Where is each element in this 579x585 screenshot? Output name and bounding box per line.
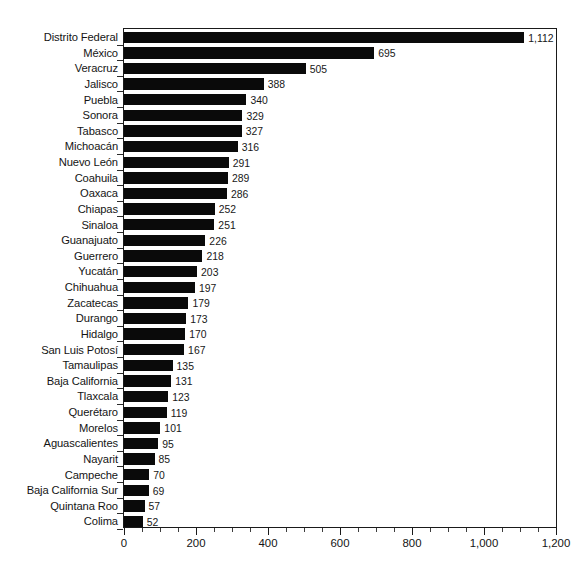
- bar: [124, 469, 149, 480]
- category-label: Michoacán: [65, 138, 118, 155]
- category-label: México: [83, 45, 118, 62]
- bar: [124, 391, 168, 402]
- category-label: Querétaro: [69, 404, 118, 421]
- category-label: Sinaloa: [81, 217, 118, 234]
- x-tick-label: 200: [186, 537, 205, 549]
- category-label: Baja California: [47, 373, 118, 390]
- bar-chart: Distrito Federal1,112México695Veracruz50…: [0, 0, 579, 585]
- bar-row: Guerrero218: [0, 248, 579, 265]
- category-label: Chiapas: [78, 201, 118, 218]
- x-tick-minor: [178, 528, 179, 532]
- category-label: Nayarit: [83, 451, 118, 468]
- x-tick-major: [484, 528, 485, 535]
- x-tick-minor: [232, 528, 233, 532]
- x-axis: 02004006008001,0001,200: [0, 528, 579, 568]
- x-tick-minor: [304, 528, 305, 532]
- bar: [124, 188, 227, 199]
- bar: [124, 235, 205, 246]
- x-tick-minor: [430, 528, 431, 532]
- bar-row: Baja California131: [0, 373, 579, 390]
- category-label: Coahuila: [75, 170, 118, 187]
- x-tick-minor: [520, 528, 521, 532]
- bar-row: Hidalgo170: [0, 326, 579, 343]
- category-label: Sonora: [83, 107, 118, 124]
- category-label: Morelos: [79, 420, 118, 437]
- x-tick-minor: [322, 528, 323, 532]
- bar-row: Morelos101: [0, 420, 579, 437]
- bar-row: Nayarit85: [0, 451, 579, 468]
- bar-row: Veracruz505: [0, 60, 579, 77]
- bar: [124, 63, 306, 74]
- bar: [124, 219, 214, 230]
- x-tick-major: [268, 528, 269, 535]
- bar: [124, 344, 184, 355]
- x-tick-major: [412, 528, 413, 535]
- x-tick-minor: [286, 528, 287, 532]
- x-tick-minor: [376, 528, 377, 532]
- bar: [124, 266, 197, 277]
- category-label: Zacatecas: [67, 295, 118, 312]
- category-label: Campeche: [65, 467, 118, 484]
- bar-row: Querétaro119: [0, 404, 579, 421]
- bar-row: Sinaloa251: [0, 217, 579, 234]
- category-label: Jalisco: [85, 76, 119, 93]
- category-label: Guanajuato: [61, 232, 118, 249]
- bar: [124, 438, 158, 449]
- bar-row: Quintana Roo57: [0, 498, 579, 515]
- bar-row: Baja California Sur69: [0, 482, 579, 499]
- bar: [124, 516, 143, 527]
- x-tick-minor: [502, 528, 503, 532]
- x-tick-major: [340, 528, 341, 535]
- bar: [124, 313, 186, 324]
- bar-row: Puebla340: [0, 92, 579, 109]
- x-tick-minor: [358, 528, 359, 532]
- bar-row: Aguascalientes95: [0, 435, 579, 452]
- bar-row: Zacatecas179: [0, 295, 579, 312]
- category-label: Chihuahua: [65, 279, 118, 296]
- bar-row: Yucatán203: [0, 263, 579, 280]
- bar: [124, 141, 238, 152]
- bar-row: Tamaulipas135: [0, 357, 579, 374]
- bar: [124, 407, 167, 418]
- bar-row: Distrito Federal1,112: [0, 29, 579, 46]
- bar: [124, 47, 374, 58]
- bar-row: Durango173: [0, 310, 579, 327]
- x-tick-minor: [160, 528, 161, 532]
- category-label: Tlaxcala: [77, 388, 118, 405]
- category-label: Quintana Roo: [50, 498, 118, 515]
- bar: [124, 360, 173, 371]
- bar-row: Sonora329: [0, 107, 579, 124]
- bar-row: Campeche70: [0, 467, 579, 484]
- bar: [124, 485, 149, 496]
- bar: [124, 125, 242, 136]
- x-tick-major: [556, 528, 557, 535]
- x-tick-minor: [466, 528, 467, 532]
- bar-row: Tabasco327: [0, 123, 579, 140]
- x-tick-label: 1,000: [470, 537, 499, 549]
- bar: [124, 32, 524, 43]
- bar: [124, 500, 145, 511]
- category-label: Guerrero: [74, 248, 118, 265]
- x-tick-major: [124, 528, 125, 535]
- category-label: Hidalgo: [81, 326, 118, 343]
- bar-row: México695: [0, 45, 579, 62]
- bar: [124, 422, 160, 433]
- bar: [124, 203, 215, 214]
- category-label: Nuevo León: [59, 154, 118, 171]
- source-note: [8, 575, 308, 585]
- category-label: Tamaulipas: [62, 357, 118, 374]
- bar: [124, 328, 185, 339]
- bar-row: Chiapas252: [0, 201, 579, 218]
- category-label: Tabasco: [77, 123, 118, 140]
- x-tick-minor: [394, 528, 395, 532]
- bar-row: Tlaxcala123: [0, 388, 579, 405]
- bar-row: Michoacán316: [0, 138, 579, 155]
- category-label: Yucatán: [78, 263, 118, 280]
- x-tick-label: 400: [258, 537, 277, 549]
- x-tick-minor: [448, 528, 449, 532]
- category-label: Baja California Sur: [27, 482, 118, 499]
- bar-row: San Luis Potosí167: [0, 342, 579, 359]
- category-label: San Luis Potosí: [41, 342, 118, 359]
- x-tick-minor: [250, 528, 251, 532]
- bar: [124, 94, 246, 105]
